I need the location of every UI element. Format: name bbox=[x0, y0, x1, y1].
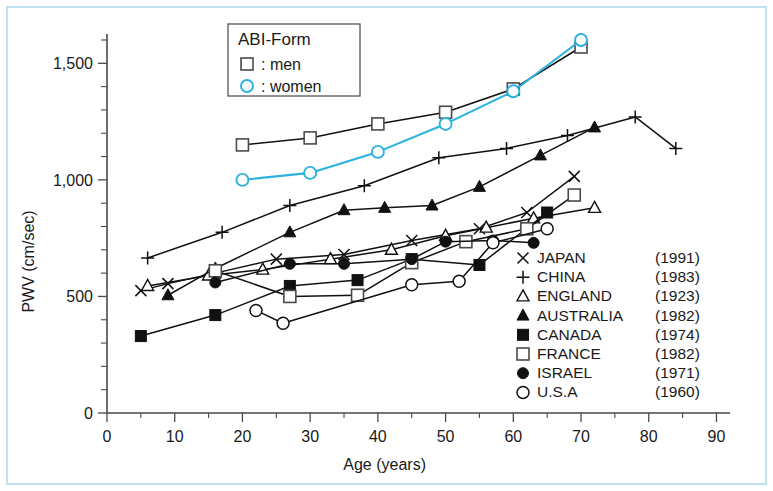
data-point-open-square-marker bbox=[372, 118, 384, 130]
x-tick-label: 80 bbox=[640, 428, 658, 445]
abi-women-marker-icon bbox=[241, 80, 253, 92]
legend-label-australia: AUSTRALIA bbox=[537, 307, 624, 324]
data-point-filled-circle-marker bbox=[339, 258, 350, 269]
data-point-plus-marker bbox=[141, 251, 154, 264]
data-point-open-circle-marker bbox=[406, 279, 418, 291]
x-axis-title: Age (years) bbox=[343, 456, 426, 473]
data-point-filled-circle-marker bbox=[210, 277, 221, 288]
x-tick-label: 60 bbox=[504, 428, 522, 445]
legend-year-england: (1923) bbox=[655, 287, 700, 304]
data-point-filled-square-marker bbox=[210, 310, 221, 321]
legend-year-japan: (1991) bbox=[655, 249, 700, 266]
data-point-open-circle-marker bbox=[304, 167, 316, 179]
legend-year-france: (1982) bbox=[655, 345, 700, 362]
data-point-filled-triangle-marker bbox=[379, 201, 391, 212]
data-point-open-square-marker bbox=[568, 189, 580, 201]
data-point-open-square-marker bbox=[236, 139, 248, 151]
series-france bbox=[209, 189, 580, 302]
legend-plus-icon bbox=[517, 271, 530, 284]
data-point-filled-square-marker bbox=[474, 259, 485, 270]
legend-label-usa: U.S.A bbox=[537, 383, 578, 400]
x-tick-label: 30 bbox=[301, 428, 319, 445]
legend-filled-square-icon bbox=[518, 329, 529, 340]
data-point-open-square-marker bbox=[304, 132, 316, 144]
data-point-open-triangle-marker bbox=[589, 201, 601, 212]
legend-label-israel: ISRAEL bbox=[537, 364, 593, 381]
data-point-open-circle-marker bbox=[541, 223, 553, 235]
data-point-plus-marker bbox=[283, 199, 296, 212]
x-tick-label: 50 bbox=[437, 428, 455, 445]
y-tick-label: 1,500 bbox=[53, 55, 93, 72]
data-point-plus-marker bbox=[500, 142, 513, 155]
data-point-open-circle-marker bbox=[277, 317, 289, 329]
data-point-open-circle-marker bbox=[372, 146, 384, 158]
data-point-plus-marker bbox=[216, 226, 229, 239]
data-point-plus-marker bbox=[432, 151, 445, 164]
x-tick-label: 0 bbox=[103, 428, 112, 445]
data-point-open-square-marker bbox=[284, 290, 296, 302]
data-point-filled-circle-marker bbox=[284, 258, 295, 269]
data-point-filled-circle-marker bbox=[406, 254, 417, 265]
legend-label-france: FRANCE bbox=[537, 345, 601, 362]
legend-open-triangle-icon bbox=[517, 290, 529, 301]
abi-women-label: : women bbox=[261, 78, 321, 95]
data-point-plus-marker bbox=[358, 179, 371, 192]
legend-open-square-icon bbox=[517, 348, 529, 360]
data-point-open-square-marker bbox=[440, 106, 452, 118]
data-point-open-circle-marker bbox=[575, 34, 587, 46]
abi-men-label: : men bbox=[261, 56, 301, 73]
figure-container: 05001,0001,5000102030405060708090Age (ye… bbox=[0, 0, 773, 491]
y-axis-title: PWV (cm/sec) bbox=[20, 210, 37, 312]
data-point-open-circle-marker bbox=[507, 85, 519, 97]
data-point-cross-x-marker bbox=[569, 171, 580, 182]
x-tick-label: 70 bbox=[572, 428, 590, 445]
abi-men-marker-icon bbox=[241, 58, 253, 70]
x-tick-label: 10 bbox=[166, 428, 184, 445]
pwv-vs-age-chart: 05001,0001,5000102030405060708090Age (ye… bbox=[0, 0, 773, 491]
data-point-open-circle-marker bbox=[236, 174, 248, 186]
abi-form-title: ABI-Form bbox=[238, 30, 311, 49]
data-point-open-square-marker bbox=[209, 265, 221, 277]
data-point-filled-square-marker bbox=[135, 331, 146, 342]
data-point-filled-triangle-marker bbox=[338, 204, 350, 215]
data-point-plus-marker bbox=[561, 129, 574, 142]
y-tick-label: 1,000 bbox=[53, 172, 93, 189]
legend-year-china: (1983) bbox=[655, 268, 700, 285]
legend-cross-x-icon bbox=[518, 253, 529, 264]
data-point-filled-circle-marker bbox=[528, 237, 539, 248]
data-point-open-circle-marker bbox=[453, 275, 465, 287]
legend-label-china: CHINA bbox=[537, 268, 586, 285]
axis-lines bbox=[107, 34, 730, 413]
data-point-filled-circle-marker bbox=[440, 236, 451, 247]
legend-year-usa: (1960) bbox=[655, 383, 700, 400]
data-point-open-circle-marker bbox=[250, 304, 262, 316]
data-point-open-circle-marker bbox=[440, 118, 452, 130]
legend-label-england: ENGLAND bbox=[537, 287, 612, 304]
legend-year-canada: (1974) bbox=[655, 326, 700, 343]
legend-label-japan: JAPAN bbox=[537, 249, 586, 266]
data-point-open-circle-marker bbox=[487, 237, 499, 249]
legend-filled-triangle-icon bbox=[517, 309, 529, 320]
x-tick-label: 40 bbox=[369, 428, 387, 445]
y-tick-label: 0 bbox=[84, 405, 93, 422]
x-tick-label: 90 bbox=[708, 428, 726, 445]
data-point-filled-triangle-marker bbox=[473, 180, 485, 191]
y-tick-label: 500 bbox=[66, 288, 93, 305]
series-u-s-a bbox=[250, 223, 553, 329]
legend-filled-circle-icon bbox=[518, 368, 529, 379]
x-tick-label: 20 bbox=[234, 428, 252, 445]
series-line bbox=[215, 195, 574, 296]
data-point-filled-square-marker bbox=[352, 275, 363, 286]
data-point-plus-marker bbox=[629, 110, 642, 123]
legend-year-israel: (1971) bbox=[655, 364, 700, 381]
legend-label-canada: CANADA bbox=[537, 326, 602, 343]
data-point-plus-marker bbox=[669, 142, 682, 155]
data-point-filled-triangle-marker bbox=[162, 289, 174, 300]
legend-open-circle-icon bbox=[517, 386, 529, 398]
legend-year-australia: (1982) bbox=[655, 307, 700, 324]
data-point-filled-triangle-marker bbox=[534, 149, 546, 160]
